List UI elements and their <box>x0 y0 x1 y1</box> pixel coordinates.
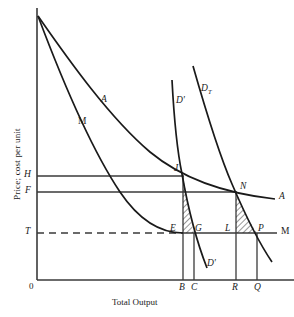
origin-label: 0 <box>29 282 34 291</box>
diagram-canvas <box>0 0 294 317</box>
point-label-l: L <box>225 224 230 234</box>
y-tick-T: T <box>25 227 30 237</box>
x-tick-B: B <box>179 283 185 293</box>
marginal-cost-curve <box>38 16 183 233</box>
y-tick-H: H <box>24 170 31 180</box>
curve-label-d-prime-bottom: D' <box>207 259 216 269</box>
average-cost-curve <box>38 16 275 199</box>
x-tick-R: R <box>232 283 238 293</box>
x-axis-title: Total Output <box>112 297 158 307</box>
curve-label-m-upper: M <box>78 117 86 127</box>
economics-diagram: Price; cost per unit Total Output 0 H F … <box>0 0 294 317</box>
shaded-region-right <box>236 192 257 233</box>
curve-label-d-prime-top: D' <box>176 96 185 106</box>
y-axis-title: Price; cost per unit <box>12 128 22 200</box>
d-total-letter: D <box>201 83 208 93</box>
point-label-p: P <box>258 224 264 234</box>
y-tick-F: F <box>25 186 31 196</box>
firm-demand-curve <box>172 80 207 268</box>
point-label-n: N <box>240 182 246 192</box>
curve-label-d-total: DT <box>201 84 212 95</box>
d-total-subscript: T <box>208 88 212 95</box>
point-label-g: G <box>195 224 202 234</box>
point-label-e: E <box>170 224 176 234</box>
curve-label-m-right: M <box>281 227 289 237</box>
point-label-j: J <box>174 164 178 174</box>
curve-label-a-right: A <box>279 192 285 202</box>
x-tick-Q: Q <box>254 283 261 293</box>
x-tick-C: C <box>191 283 197 293</box>
curve-label-a-upper: A <box>101 95 107 105</box>
